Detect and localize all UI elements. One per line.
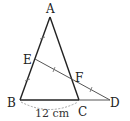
geometry-figure: A B C D E F 12 cm bbox=[0, 0, 130, 121]
label-c: C bbox=[78, 105, 87, 119]
segment-ac bbox=[50, 17, 79, 100]
label-b: B bbox=[7, 96, 16, 110]
label-d: D bbox=[110, 96, 120, 110]
label-f: F bbox=[75, 71, 83, 85]
segment-ed bbox=[35, 59, 110, 100]
label-a: A bbox=[45, 2, 55, 16]
label-e: E bbox=[23, 53, 32, 67]
dimension-label-bc: 12 cm bbox=[35, 107, 70, 120]
